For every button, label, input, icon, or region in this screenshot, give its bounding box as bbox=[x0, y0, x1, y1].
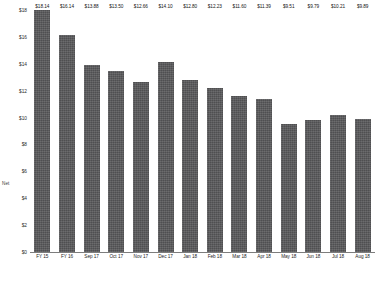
y-axis-tick-label: $0 bbox=[22, 250, 27, 255]
bar-value-label: $16.14 bbox=[60, 4, 74, 9]
plot-area: $0$2$4$6$8$10$12$14$16$18 $18.14$16.14$1… bbox=[30, 10, 375, 255]
bar-slot: $9.79 bbox=[301, 10, 326, 252]
bar-value-label: $12.23 bbox=[208, 4, 222, 9]
y-axis-tick-label: $2 bbox=[22, 223, 27, 228]
bar-slot: $13.50 bbox=[104, 10, 129, 252]
bar-value-label: $9.89 bbox=[357, 4, 368, 9]
x-axis-tick-label: Mar 18 bbox=[227, 254, 252, 259]
bar-value-label: $12.66 bbox=[134, 4, 148, 9]
bar[interactable]: $16.14 bbox=[59, 35, 75, 252]
bar-value-label: $13.50 bbox=[109, 4, 123, 9]
bar-slot: $12.23 bbox=[202, 10, 227, 252]
y-axis-tick-label: $8 bbox=[22, 142, 27, 147]
bar-value-label: $11.60 bbox=[233, 4, 247, 9]
y-axis-tick-label: $18 bbox=[19, 8, 27, 13]
bar-slot: $12.66 bbox=[129, 10, 154, 252]
y-axis-tick-label: $14 bbox=[19, 61, 27, 66]
x-axis-tick-label: Jul 18 bbox=[326, 254, 351, 259]
x-axis-tick-label: Feb 18 bbox=[202, 254, 227, 259]
x-axis-tick-label: Jan 18 bbox=[178, 254, 203, 259]
bar[interactable]: $9.51 bbox=[281, 124, 297, 252]
bar[interactable]: $14.10 bbox=[158, 62, 174, 252]
x-axis-tick-label: Apr 18 bbox=[252, 254, 277, 259]
x-axis-tick-label: Dec 17 bbox=[153, 254, 178, 259]
bar-value-label: $14.10 bbox=[158, 4, 172, 9]
bar-slot: $9.89 bbox=[350, 10, 375, 252]
bar-value-label: $11.39 bbox=[257, 4, 271, 9]
bar[interactable]: $10.21 bbox=[330, 115, 346, 252]
bar-slot: $10.21 bbox=[326, 10, 351, 252]
bar-value-label: $9.51 bbox=[283, 4, 294, 9]
bar-value-label: $12.80 bbox=[183, 4, 197, 9]
y-axis-tick-label: $10 bbox=[19, 115, 27, 120]
x-axis-tick-label: May 18 bbox=[276, 254, 301, 259]
bar-slot: $9.51 bbox=[276, 10, 301, 252]
bar[interactable]: $12.80 bbox=[182, 80, 198, 252]
bar[interactable]: $12.23 bbox=[207, 88, 223, 252]
y-axis-tick-label: $4 bbox=[22, 196, 27, 201]
x-axis-tick-label: Aug 18 bbox=[350, 254, 375, 259]
x-axis-tick-label: FY 16 bbox=[55, 254, 80, 259]
bar[interactable]: $18.14 bbox=[34, 10, 50, 252]
x-axis-tick-label: Nov 17 bbox=[129, 254, 154, 259]
bar-slot: $13.88 bbox=[79, 10, 104, 252]
y-axis-tick-label: $12 bbox=[19, 88, 27, 93]
bar-slot: $14.10 bbox=[153, 10, 178, 252]
bar-chart: Net $0$2$4$6$8$10$12$14$16$18 $18.14$16.… bbox=[0, 0, 379, 283]
x-axis-tick-group: FY 15FY 16Sep 17Oct 17Nov 17Dec 17Jan 18… bbox=[30, 254, 375, 259]
bar[interactable]: $9.79 bbox=[305, 120, 321, 252]
bar-value-label: $13.88 bbox=[85, 4, 99, 9]
bar-value-label: $9.79 bbox=[308, 4, 319, 9]
y-axis-tick-label: $6 bbox=[22, 169, 27, 174]
bar-slot: $16.14 bbox=[55, 10, 80, 252]
bar-value-label: $10.21 bbox=[331, 4, 345, 9]
bar-series: $18.14$16.14$13.88$13.50$12.66$14.10$12.… bbox=[30, 10, 375, 252]
x-axis-tick-label: FY 15 bbox=[30, 254, 55, 259]
x-axis-tick-label: Jun 18 bbox=[301, 254, 326, 259]
bar-value-label: $18.14 bbox=[35, 4, 49, 9]
y-axis-tick-label: $16 bbox=[19, 34, 27, 39]
bar[interactable]: $9.89 bbox=[355, 119, 371, 252]
bar-slot: $12.80 bbox=[178, 10, 203, 252]
y-axis-title: Net bbox=[2, 181, 9, 186]
bar[interactable]: $11.60 bbox=[231, 96, 247, 252]
x-axis-line bbox=[30, 252, 375, 253]
bar[interactable]: $12.66 bbox=[133, 82, 149, 252]
x-axis-tick-label: Sep 17 bbox=[79, 254, 104, 259]
bar-slot: $11.60 bbox=[227, 10, 252, 252]
bar-slot: $11.39 bbox=[252, 10, 277, 252]
bar[interactable]: $11.39 bbox=[256, 99, 272, 252]
bar-slot: $18.14 bbox=[30, 10, 55, 252]
bar[interactable]: $13.88 bbox=[84, 65, 100, 252]
x-axis-tick-label: Oct 17 bbox=[104, 254, 129, 259]
bar[interactable]: $13.50 bbox=[108, 71, 124, 253]
